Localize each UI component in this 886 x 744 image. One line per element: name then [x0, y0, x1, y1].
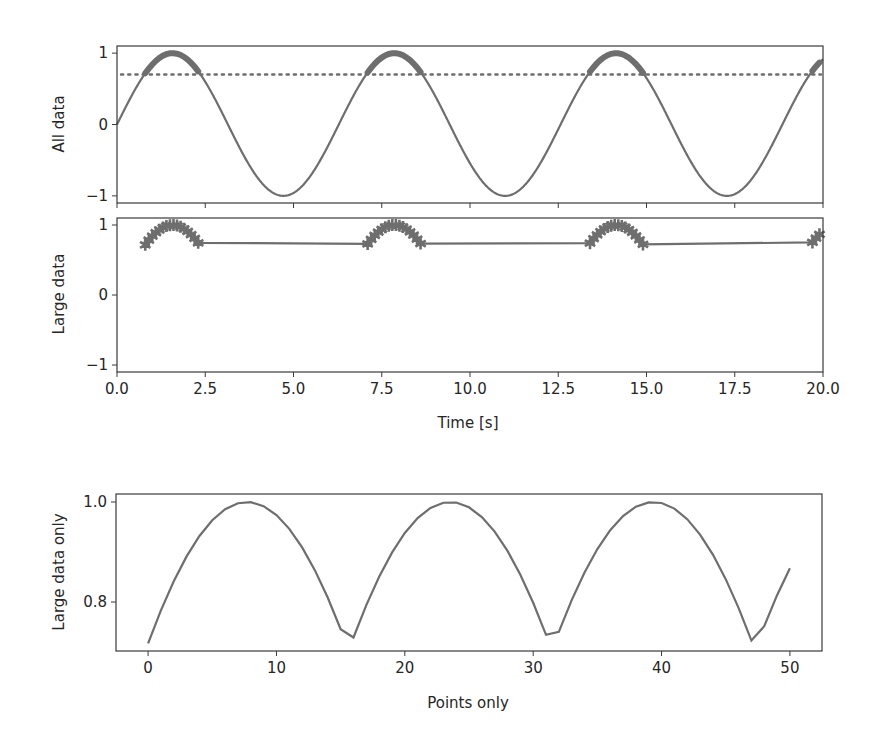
- x-tick-label: 50: [780, 659, 799, 677]
- x-tick-label: 0.0: [105, 380, 129, 398]
- y-tick-label: 0: [98, 286, 108, 304]
- x-tick-label: 40: [652, 659, 671, 677]
- figure: −101 All data 0.02.55.07.510.012.515.017…: [0, 0, 886, 744]
- x-tick-label: 12.5: [542, 380, 575, 398]
- x-tick-label: 17.5: [718, 380, 751, 398]
- y-tick-label: 1: [98, 44, 108, 62]
- x-tick-label: 5.0: [282, 380, 306, 398]
- y-axis-label: All data: [50, 95, 68, 152]
- x-tick-label: 10: [267, 659, 286, 677]
- y-tick-label: −1: [86, 356, 108, 374]
- x-tick-label: 7.5: [370, 380, 394, 398]
- x-axis-label: Points only: [427, 694, 509, 712]
- x-tick-label: 30: [524, 659, 543, 677]
- y-axis-label: Large data: [50, 254, 68, 335]
- x-tick-label: 20.0: [806, 380, 839, 398]
- x-tick-label: 20: [395, 659, 414, 677]
- x-tick-label: 2.5: [193, 380, 217, 398]
- y-tick-label: 1: [98, 216, 108, 234]
- x-tick-label: 15.0: [630, 380, 663, 398]
- x-axis-label: Time [s]: [437, 414, 499, 432]
- x-tick-label: 10.0: [453, 380, 486, 398]
- y-tick-label: −1: [86, 187, 108, 205]
- y-axis-label: Large data only: [50, 513, 68, 630]
- y-tick-label: 0.8: [83, 593, 107, 611]
- y-tick-label: 0: [98, 116, 108, 134]
- y-tick-label: 1.0: [83, 493, 107, 511]
- x-tick-label: 0: [143, 659, 153, 677]
